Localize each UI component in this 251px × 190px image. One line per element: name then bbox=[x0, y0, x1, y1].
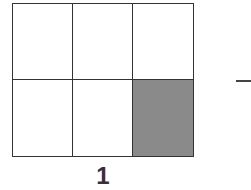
dash-symbol bbox=[236, 80, 251, 82]
grid-cell-r2-c2 bbox=[73, 80, 133, 156]
figure-label: 1 bbox=[90, 164, 116, 188]
grid-cell-r2-c1 bbox=[13, 80, 73, 156]
grid-cell-r1-c1 bbox=[13, 4, 73, 80]
grid-cell-r1-c3 bbox=[133, 4, 193, 80]
grid-cell-r2-c3-shaded bbox=[133, 80, 193, 156]
grid-cell-r1-c2 bbox=[73, 4, 133, 80]
fraction-grid bbox=[12, 3, 194, 157]
